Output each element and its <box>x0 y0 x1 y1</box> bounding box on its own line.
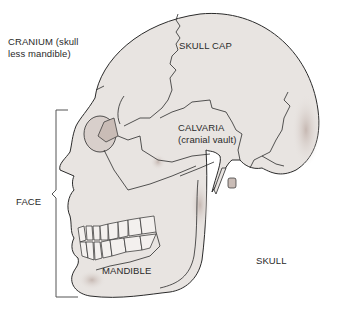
external-auditory-meatus-icon <box>228 178 236 188</box>
skull-label: SKULL <box>256 255 287 267</box>
cranium-label-line1: CRANIUM (skull <box>8 36 79 48</box>
skull-diagram: CRANIUM (skull less mandible) SKULL CAP … <box>0 0 342 309</box>
skull-cap-label: SKULL CAP <box>179 40 232 52</box>
calvaria-label-line1: CALVARIA <box>178 122 237 134</box>
mandible-label: MANDIBLE <box>102 265 151 277</box>
cranium-label: CRANIUM (skull less mandible) <box>8 36 79 60</box>
calvaria-label-line2: (cranial vault) <box>178 134 237 146</box>
cranium-label-line2: less mandible) <box>8 48 79 60</box>
calvaria-label: CALVARIA (cranial vault) <box>178 122 237 146</box>
face-label: FACE <box>16 196 41 208</box>
